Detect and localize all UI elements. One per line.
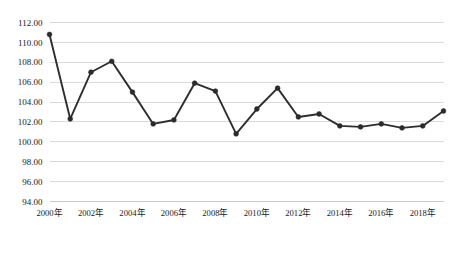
data-point [337, 124, 342, 129]
data-point [400, 126, 405, 131]
x-tick-label: 2008年 [202, 207, 228, 218]
x-tick-label: 2000年 [36, 207, 62, 218]
data-point [213, 89, 218, 94]
data-point [379, 122, 384, 127]
data-point [68, 117, 73, 122]
chart-figure: 94.0096.0098.00100.00102.00104.00106.001… [0, 0, 460, 270]
x-tick-label: 2016年 [368, 207, 394, 218]
y-tick-label: 100.00 [18, 137, 43, 147]
data-point [109, 59, 114, 64]
y-tick-label: 112.00 [18, 18, 43, 28]
figure-caption [0, 255, 460, 270]
x-tick-label: 2006年 [161, 207, 187, 218]
x-tick-label: 2004年 [119, 207, 145, 218]
line-chart: 94.0096.0098.00100.00102.00104.00106.001… [0, 0, 460, 270]
data-point [47, 32, 52, 37]
y-tick-label: 108.00 [18, 57, 43, 67]
data-point [317, 112, 322, 117]
data-point [130, 90, 135, 95]
y-tick-label: 102.00 [18, 117, 43, 127]
x-tick-label: 2018年 [410, 207, 436, 218]
data-point [89, 70, 94, 75]
data-point [296, 115, 301, 120]
data-point [172, 118, 177, 123]
chart-background [0, 0, 460, 270]
y-tick-label: 110.00 [18, 38, 43, 48]
data-point [151, 122, 156, 127]
data-point [420, 124, 425, 129]
data-point [358, 125, 363, 130]
y-tick-label: 106.00 [18, 77, 43, 87]
x-tick-label: 2010年 [244, 207, 270, 218]
data-point [275, 86, 280, 91]
data-point [441, 109, 446, 114]
y-tick-label: 98.00 [22, 157, 43, 167]
x-tick-label: 2002年 [78, 207, 104, 218]
y-tick-label: 104.00 [18, 97, 43, 107]
x-tick-label: 2012年 [285, 207, 311, 218]
y-tick-label: 96.00 [22, 177, 43, 187]
x-tick-label: 2014年 [327, 207, 353, 218]
data-point [234, 131, 239, 136]
y-tick-label: 94.00 [22, 197, 43, 207]
data-point [254, 107, 259, 112]
data-point [192, 81, 197, 86]
